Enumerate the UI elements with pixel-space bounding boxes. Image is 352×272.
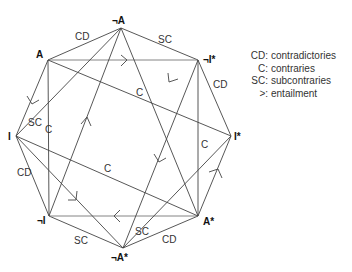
- edge-A-nI: [48, 60, 49, 216]
- vertex-not-I: ¬I: [37, 215, 46, 226]
- edges: [16, 28, 231, 248]
- legend-key: >:: [248, 88, 271, 101]
- edge-nAs-nIs: [123, 60, 198, 248]
- label-A-Is: C: [136, 87, 143, 98]
- edge-nA-As: [121, 28, 198, 216]
- label-nAs-nI: SC: [74, 235, 88, 246]
- octagon-of-opposition: A ¬A ¬I* I* A* ¬A* ¬I I CD SC CD CD SC C…: [0, 0, 352, 272]
- label-nAs-Is: SC: [135, 226, 149, 237]
- legend: CD: contradictories C: contraries SC: su…: [248, 50, 336, 100]
- legend-row-contradictories: CD: contradictories: [248, 50, 336, 63]
- vertex-not-A: ¬A: [112, 15, 125, 26]
- label-A-nA: CD: [75, 31, 89, 42]
- edge-I-As: [16, 136, 198, 216]
- edge-A-Is: [48, 60, 231, 136]
- label-I-As: C: [104, 163, 111, 174]
- label-nI-I: CD: [17, 167, 31, 178]
- arrow-A-to-I-icon: [27, 96, 39, 104]
- vertex-A: A: [36, 49, 43, 60]
- vertex-A-star: A*: [203, 216, 214, 227]
- label-As-nAs: CD: [162, 234, 176, 245]
- legend-key: CD:: [248, 50, 271, 63]
- legend-key: SC:: [248, 75, 271, 88]
- legend-row-contraries: C: contraries: [248, 63, 336, 76]
- edge-nA-nI: [49, 28, 121, 216]
- label-nIs-Is: CD: [213, 79, 227, 90]
- legend-value: entailment: [271, 88, 317, 101]
- legend-row-subcontraries: SC: subcontraries: [248, 75, 336, 88]
- arrow-A-to-nIs-icon: [121, 55, 127, 66]
- arrow-nI-to-nA-icon: [81, 117, 91, 126]
- arrow-nA-to-As-icon: [168, 73, 178, 82]
- legend-value: subcontraries: [271, 75, 331, 88]
- vertex-not-I-star: ¬I*: [203, 54, 216, 65]
- label-nA-nIs: SC: [158, 34, 172, 45]
- label-A-nI: C: [45, 124, 52, 135]
- legend-value: contradictories: [271, 50, 336, 63]
- legend-key: C:: [248, 63, 271, 76]
- vertex-I: I: [8, 131, 11, 142]
- vertex-not-A-star: ¬A*: [111, 252, 128, 263]
- label-nIs-As: C: [201, 139, 208, 150]
- label-nA-I: SC: [28, 117, 42, 128]
- legend-value: contraries: [271, 63, 315, 76]
- vertex-I-star: I*: [234, 131, 241, 142]
- legend-row-entailment: >: entailment: [248, 88, 336, 101]
- edge-nAs-I: [16, 136, 123, 248]
